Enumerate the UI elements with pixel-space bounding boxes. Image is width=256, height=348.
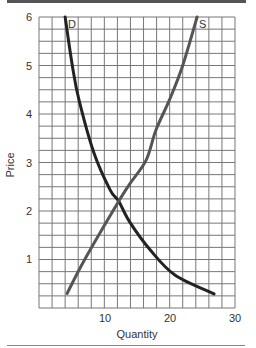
y-tick-5: 5 <box>26 60 32 72</box>
y-tick-4: 4 <box>26 108 32 120</box>
supply-demand-chart: D S 6 5 4 3 2 1 10 20 30 Quantity Price <box>0 0 256 348</box>
supply-curve-label: S <box>199 18 206 30</box>
x-axis-ticks: 10 20 30 <box>99 312 241 324</box>
y-axis-ticks: 6 5 4 3 2 1 <box>26 11 32 265</box>
curves <box>65 17 214 294</box>
x-tick-20: 20 <box>164 312 176 324</box>
bottom-rule <box>7 345 245 346</box>
plot-grid <box>39 17 235 308</box>
supply-curve <box>67 17 197 293</box>
x-tick-30: 30 <box>229 312 241 324</box>
y-tick-2: 2 <box>26 205 32 217</box>
y-axis-label: Price <box>4 152 16 177</box>
y-tick-6: 6 <box>26 11 32 23</box>
demand-curve-label: D <box>68 18 76 30</box>
y-tick-3: 3 <box>26 157 32 169</box>
x-axis-label: Quantity <box>117 328 158 340</box>
x-tick-10: 10 <box>99 312 111 324</box>
y-tick-1: 1 <box>26 253 32 265</box>
